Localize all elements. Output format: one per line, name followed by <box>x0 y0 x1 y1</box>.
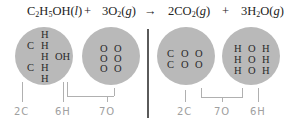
bracket-line-7o-left-b <box>114 88 115 96</box>
atom: O <box>248 44 256 55</box>
label-6h-products: 6H <box>250 106 266 117</box>
atom: O <box>114 64 122 75</box>
atom: C <box>167 49 174 60</box>
product-co2: 2CO2(g) <box>168 4 210 19</box>
formula-part: ) <box>78 4 82 18</box>
product-water: 3H2O(g) <box>241 4 284 19</box>
atom: O <box>181 60 189 71</box>
oxygen-atom-circle <box>82 27 140 85</box>
formula-part: 2CO <box>168 4 192 18</box>
atom: H <box>41 74 49 85</box>
label-2c-reactants: 2C <box>14 106 29 117</box>
atom: H <box>41 63 49 74</box>
atom: C <box>167 60 174 71</box>
formula-part: ) <box>132 4 136 18</box>
reaction-divider <box>147 29 149 118</box>
atom: H <box>234 66 242 77</box>
formula-part: 3O <box>102 4 117 18</box>
atom: H <box>234 55 242 66</box>
atom: H <box>234 44 242 55</box>
reaction-arrow: → <box>144 4 157 19</box>
label-2c-products: 2C <box>177 106 192 117</box>
bracket-line-7o-left-stem <box>107 96 108 102</box>
atom: O <box>195 49 203 60</box>
formula-part: OH( <box>52 4 74 18</box>
atom: H <box>262 66 270 77</box>
plus-sign: + <box>222 4 229 19</box>
bracket-line-7o-right-b <box>242 88 243 97</box>
atom: O <box>248 66 256 77</box>
label-7o-reactants: 7O <box>99 106 115 117</box>
bracket-line-7o-right-a <box>201 88 202 97</box>
bracket-line-2c-right <box>185 90 186 102</box>
atom: C <box>27 41 34 52</box>
atom: O <box>248 55 256 66</box>
plus-sign: + <box>84 4 91 19</box>
atom: H <box>262 44 270 55</box>
bracket-line-7o-left-a <box>67 82 68 96</box>
atom: OH <box>55 52 70 63</box>
bracket-line-7o-right-stem <box>222 97 223 102</box>
atom: O <box>100 64 108 75</box>
atom: H <box>41 30 49 41</box>
atom: H <box>41 52 49 63</box>
formula-part: 3H <box>241 4 256 18</box>
formula-part: O( <box>260 4 273 18</box>
label-7o-products: 7O <box>214 106 230 117</box>
formula-part: ) <box>206 4 210 18</box>
atom: H <box>262 55 270 66</box>
bracket-line-2c-left <box>22 82 23 102</box>
bracket-line-6h-left <box>63 82 64 102</box>
reactant-oxygen: 3O2(g) <box>102 4 136 19</box>
atom: C <box>27 63 34 74</box>
atom: H <box>41 41 49 52</box>
formula-part: ) <box>280 4 284 18</box>
label-6h-reactants: 6H <box>55 106 71 117</box>
atom: O <box>195 60 203 71</box>
reactant-ethanol: C2H5OH(l) <box>27 4 82 19</box>
atom: O <box>181 49 189 60</box>
bracket-line-6h-right <box>258 88 259 102</box>
